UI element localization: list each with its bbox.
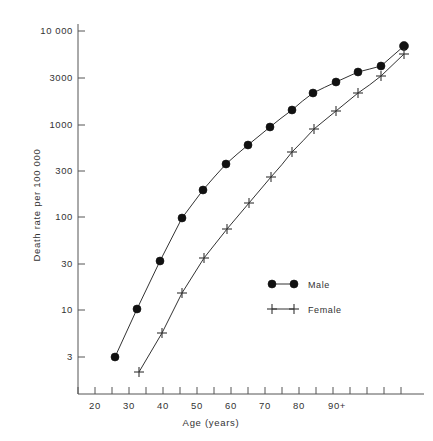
data-point-male — [156, 257, 164, 265]
y-tick-label-100: 100 — [55, 211, 73, 222]
legend-male-marker-start — [268, 280, 276, 288]
data-point-male — [199, 186, 207, 194]
data-point-male — [222, 160, 230, 168]
legend-female-marker-start — [267, 304, 277, 314]
data-point-female — [177, 288, 187, 298]
y-axis-ticks — [78, 31, 85, 357]
data-point-male — [178, 214, 186, 222]
x-tick-label-90plus: 90+ — [328, 400, 346, 411]
data-point-female — [157, 328, 167, 338]
x-tick-label-60: 60 — [225, 400, 237, 411]
data-point-male — [288, 106, 296, 114]
data-point-male — [309, 89, 317, 97]
series-female — [134, 49, 409, 377]
chart-container: 10 000 3000 1000 300 100 30 10 3 — [0, 0, 433, 441]
y-tick-label-30: 30 — [61, 258, 73, 269]
chart-legend: Male Female — [267, 280, 342, 315]
y-axis-tick-labels: 10 000 3000 1000 300 100 30 10 3 — [40, 25, 73, 362]
x-tick-label-50: 50 — [191, 400, 203, 411]
y-tick-label-3: 3 — [67, 351, 73, 362]
x-axis-tick-labels: 20 30 40 50 60 70 80 90+ — [89, 400, 346, 411]
x-tick-label-30: 30 — [123, 400, 135, 411]
y-axis-title: Death rate per 100 000 — [31, 148, 42, 261]
legend-label-female: Female — [308, 305, 342, 315]
x-tick-label-40: 40 — [157, 400, 169, 411]
data-point-male — [332, 78, 340, 86]
y-tick-label-3000: 3000 — [49, 72, 73, 83]
x-tick-label-70: 70 — [259, 400, 271, 411]
data-point-female — [199, 253, 209, 263]
data-point-male — [133, 305, 141, 313]
data-point-male — [354, 68, 362, 76]
death-rate-line-chart: 10 000 3000 1000 300 100 30 10 3 — [0, 0, 433, 441]
x-axis-ticks — [78, 387, 401, 394]
data-point-male — [266, 123, 274, 131]
x-tick-label-20: 20 — [89, 400, 101, 411]
y-tick-label-10000: 10 000 — [40, 25, 73, 36]
y-tick-label-300: 300 — [55, 165, 73, 176]
y-tick-label-10: 10 — [61, 304, 73, 315]
series-female-line — [139, 54, 404, 372]
data-point-male — [244, 141, 252, 149]
data-point-male — [111, 353, 119, 361]
data-point-male — [377, 62, 385, 70]
legend-female-marker-end — [289, 304, 299, 314]
x-tick-label-80: 80 — [293, 400, 305, 411]
x-axis-title: Age (years) — [183, 417, 240, 428]
legend-label-male: Male — [308, 280, 330, 290]
legend-entry-female: Female — [267, 304, 342, 315]
legend-male-marker-end — [290, 280, 298, 288]
axes-group — [78, 24, 424, 394]
y-tick-label-1000: 1000 — [49, 119, 73, 130]
data-point-female — [134, 367, 144, 377]
legend-entry-male: Male — [268, 280, 330, 290]
